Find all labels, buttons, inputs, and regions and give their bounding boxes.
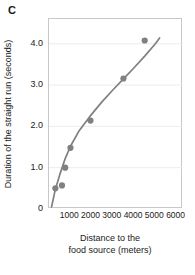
panel-label: C [8, 4, 16, 16]
plot-svg [49, 19, 183, 209]
x-tick-label-2: 3000 [102, 210, 121, 220]
fitted-curve [52, 38, 160, 207]
x-tick-label-1: 2000 [81, 210, 100, 220]
data-point-3 [67, 145, 73, 151]
y-axis-tick-labels: 01.02.03.04.0 [0, 18, 46, 208]
y-tick-label-0: 0 [38, 203, 43, 213]
figure-panel-c: C Duration of the straight run (seconds)… [0, 0, 195, 275]
data-point-2 [62, 165, 68, 171]
data-points [52, 37, 148, 191]
data-point-6 [142, 37, 148, 43]
x-tick-label-4: 5000 [145, 210, 164, 220]
data-point-4 [87, 118, 93, 124]
y-tick-label-1: 1.0 [30, 162, 43, 172]
x-axis-title: Distance to the food source (meters) [30, 232, 190, 256]
data-point-0 [52, 185, 58, 191]
fit-curve-path [52, 38, 160, 207]
x-axis-tick-labels: 100020003000400050006000 [48, 209, 182, 223]
x-tick-label-5: 6000 [166, 210, 185, 220]
plot-area [48, 18, 182, 208]
y-tick-label-3: 3.0 [30, 79, 43, 89]
y-tick-label-4: 4.0 [30, 38, 43, 48]
x-axis-title-line-1: Distance to the [30, 232, 190, 244]
x-tick-label-3: 4000 [124, 210, 143, 220]
data-point-5 [120, 75, 126, 81]
x-axis-title-line-2: food source (meters) [30, 244, 190, 256]
x-tick-label-0: 1000 [60, 210, 79, 220]
y-tick-label-2: 2.0 [30, 120, 43, 130]
data-point-1 [59, 182, 65, 188]
